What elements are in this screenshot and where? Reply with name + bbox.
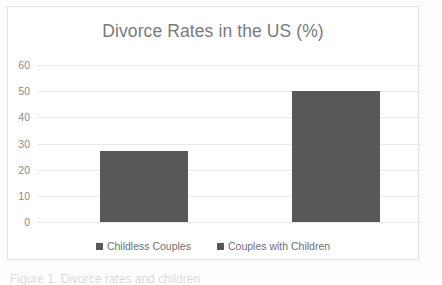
bar-couples-with-children	[292, 91, 379, 222]
y-axis-tick-label: 10	[18, 190, 30, 202]
page-bottom-caption-artifact: Figure 1. Divorce rates and children	[10, 272, 310, 285]
legend-swatch-icon	[96, 243, 103, 250]
gridline-0	[37, 222, 421, 223]
legend-swatch-icon	[217, 243, 224, 250]
legend-item[interactable]: Childless Couples	[96, 240, 191, 252]
y-axis-tick-label: 30	[18, 138, 30, 150]
y-axis-tick-label: 60	[18, 59, 30, 71]
y-axis-tick-label: 20	[18, 164, 30, 176]
y-axis-tick-label: 40	[18, 111, 30, 123]
y-axis-tick-label: 0	[24, 216, 30, 228]
chart-title: Divorce Rates in the US (%)	[8, 21, 418, 42]
legend-item[interactable]: Couples with Children	[217, 240, 330, 252]
legend-label: Childless Couples	[107, 240, 191, 252]
chart-legend: Childless CouplesCouples with Children	[8, 240, 418, 252]
bar-childless-couples	[100, 151, 187, 222]
plot-area: 0102030405060	[37, 65, 421, 222]
legend-label: Couples with Children	[228, 240, 330, 252]
chart-container: Divorce Rates in the US (%) 010203040506…	[7, 6, 419, 260]
gridline-60	[37, 65, 421, 66]
y-axis-tick-label: 50	[18, 85, 30, 97]
